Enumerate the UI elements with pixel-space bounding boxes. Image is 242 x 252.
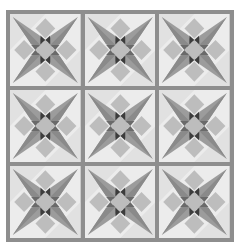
quilt-block bbox=[10, 166, 81, 238]
quilt-block bbox=[159, 14, 230, 86]
quilt-block bbox=[85, 14, 156, 86]
star-pattern-icon bbox=[85, 166, 156, 238]
star-pattern-icon bbox=[159, 166, 230, 238]
quilt-block bbox=[85, 166, 156, 238]
star-pattern-icon bbox=[85, 14, 156, 86]
quilt-block bbox=[10, 90, 81, 162]
quilt-block bbox=[85, 90, 156, 162]
star-pattern-icon bbox=[10, 166, 81, 238]
quilt-block bbox=[159, 166, 230, 238]
star-pattern-icon bbox=[85, 90, 156, 162]
quilt bbox=[6, 10, 234, 242]
star-pattern-icon bbox=[10, 90, 81, 162]
quilt-block bbox=[10, 14, 81, 86]
star-pattern-icon bbox=[159, 90, 230, 162]
star-pattern-icon bbox=[10, 14, 81, 86]
star-pattern-icon bbox=[159, 14, 230, 86]
quilt-block bbox=[159, 90, 230, 162]
